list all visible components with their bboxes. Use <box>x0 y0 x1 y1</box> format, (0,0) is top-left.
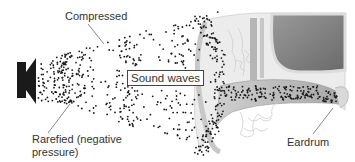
sound-waves-label: Sound waves <box>127 70 204 86</box>
compressed-leader-line <box>88 24 104 44</box>
compressed-label: Compressed <box>65 10 127 23</box>
speaker-icon <box>17 58 36 104</box>
rarefied-label-line2: pressure) <box>32 146 78 159</box>
ear-anatomy <box>194 13 348 152</box>
rarefied-leader-line <box>48 104 70 133</box>
sound-wave-diagram: Compressed Sound waves Rarefied (negativ… <box>0 0 355 162</box>
eardrum-leader-line <box>313 108 333 134</box>
rarefied-label-line1: Rarefied (negative <box>32 133 122 146</box>
eardrum-label: Eardrum <box>287 136 329 149</box>
